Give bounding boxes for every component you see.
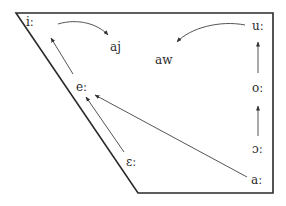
arrow-u-to-aw xyxy=(177,24,245,42)
vowel-space-trapezoid xyxy=(16,13,273,193)
vowel-label-a: aː xyxy=(251,174,262,186)
vowel-label-e: eː xyxy=(76,81,87,93)
arrow-a-to-e xyxy=(95,95,247,177)
vowel-label-aj: aj xyxy=(110,41,121,53)
arrow-i-to-aj xyxy=(58,22,108,35)
vowel-label-epsilon: ɛː xyxy=(126,156,136,168)
vowel-label-u: uː xyxy=(252,20,264,32)
vowel-label-open-o: ɔː xyxy=(252,143,263,155)
vowel-label-o: oː xyxy=(252,82,263,94)
vowel-label-aw: aw xyxy=(155,54,172,66)
vowel-label-i: iː xyxy=(26,16,34,28)
vowel-diagram xyxy=(0,0,286,206)
